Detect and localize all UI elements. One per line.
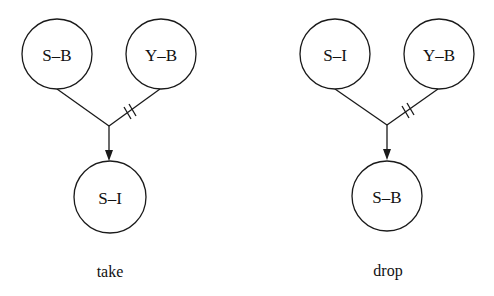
diagram-caption: drop [373,262,402,280]
node-label: Y–B [423,46,455,65]
node-top-right: Y–B [126,19,196,89]
node-label: S–I [98,189,122,208]
node-label: S–I [323,46,347,65]
take-diagram: S–B Y–B S–I take [22,19,196,280]
arrowhead-icon [105,150,113,161]
edge-yb-to-junction [387,89,438,125]
node-label: S–B [42,46,71,65]
node-top-right: Y–B [404,19,474,89]
edge-si-to-junction [335,89,387,125]
diagram-caption: take [97,263,124,280]
diagram-canvas: S–B Y–B S–I take S–I Y–B [0,0,494,296]
node-top-left: S–B [22,19,92,89]
edge-yb-to-junction [109,89,160,126]
drop-diagram: S–I Y–B S–B drop [300,19,474,280]
edge-sb-to-junction [57,89,109,126]
node-label: Y–B [145,46,177,65]
node-bottom: S–I [74,161,146,233]
arrowhead-icon [383,149,391,160]
node-top-left: S–I [300,19,370,89]
node-bottom: S–B [352,161,422,231]
node-label: S–B [372,188,401,207]
